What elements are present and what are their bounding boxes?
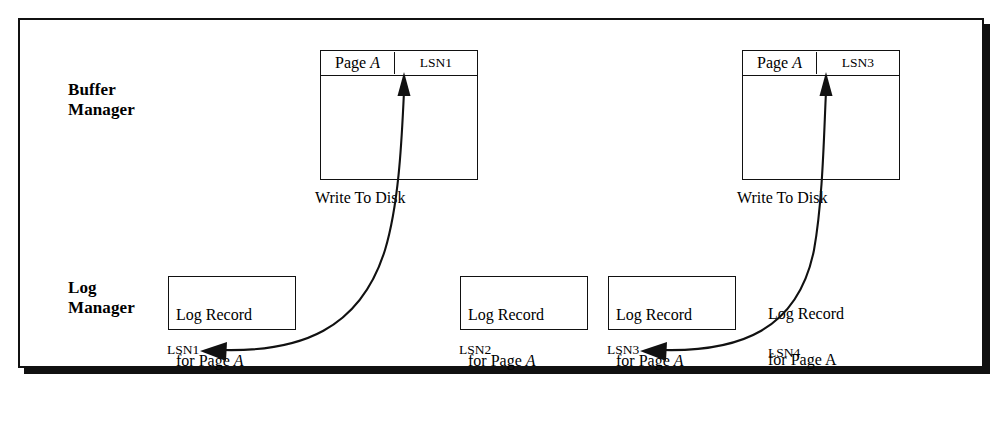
log-record-box-3-line1: Log Record	[616, 306, 692, 323]
log-record-box-1: Log Record for Page A	[168, 276, 296, 330]
frame-drop-shadow-right	[984, 24, 990, 374]
log-record-box-2: Log Record for Page A	[460, 276, 588, 330]
buffer-page-frame-2-page-label: Page	[757, 54, 788, 71]
log-record-box-3-page-id: A	[674, 352, 684, 369]
buffer-page-frame-2-body	[743, 76, 899, 179]
buffer-page-frame-2: Page A LSN3	[742, 50, 900, 180]
buffer-page-frame-1-header: Page A LSN1	[321, 51, 477, 76]
buffer-page-frame-2-lsn: LSN3	[817, 52, 899, 74]
buffer-page-frame-1-lsn: LSN1	[395, 52, 477, 74]
buffer-page-frame-2-page-cell: Page A	[743, 52, 817, 74]
write-to-disk-caption-1: Write To Disk	[315, 188, 405, 208]
figure-root: Buffer Manager Log Manager Page A LSN1 P…	[0, 0, 1006, 426]
log-record-text-4-page-id: A	[825, 351, 837, 368]
log-manager-row-label: Log Manager	[68, 278, 135, 318]
write-to-disk-caption-2: Write To Disk	[737, 188, 827, 208]
log-record-box-2-page-id: A	[526, 352, 536, 369]
buffer-page-frame-2-header: Page A LSN3	[743, 51, 899, 76]
lsn-caption-4: LSN4	[768, 344, 800, 361]
log-record-text-4: Log Record for Page A	[762, 276, 890, 330]
buffer-page-frame-1-page-cell: Page A	[321, 52, 395, 74]
log-record-box-1-page-id: A	[234, 352, 244, 369]
buffer-page-frame-1-page-label: Page	[335, 54, 366, 71]
log-record-box-2-line1: Log Record	[468, 306, 544, 323]
log-record-box-3: Log Record for Page A	[608, 276, 736, 330]
buffer-page-frame-1-page-id: A	[370, 54, 380, 71]
buffer-page-frame-2-page-id: A	[792, 54, 802, 71]
buffer-page-frame-1-body	[321, 76, 477, 179]
log-record-box-1-line1: Log Record	[176, 306, 252, 323]
buffer-manager-row-label: Buffer Manager	[68, 80, 135, 120]
lsn-caption-1: LSN1	[167, 341, 199, 358]
log-record-text-4-line1: Log Record	[768, 305, 844, 322]
lsn-caption-3: LSN3	[607, 341, 639, 358]
buffer-page-frame-1: Page A LSN1	[320, 50, 478, 180]
lsn-caption-2: LSN2	[459, 341, 491, 358]
